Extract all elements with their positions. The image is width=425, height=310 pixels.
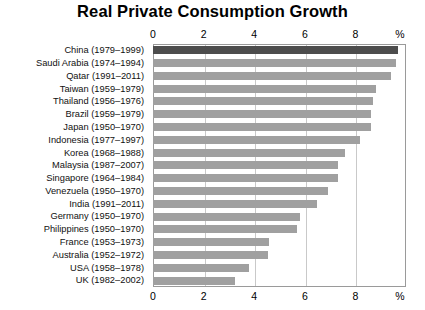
bar-row[interactable] [153, 159, 406, 172]
bar-row[interactable] [153, 44, 406, 57]
category-label: Australia (1952–1972) [0, 250, 144, 260]
category-label: Qatar (1991–2011) [0, 71, 144, 81]
bar[interactable] [153, 97, 373, 105]
bar-row[interactable] [153, 261, 406, 274]
category-label: Saudi Arabia (1974–1994) [0, 58, 144, 68]
bar-row[interactable] [153, 249, 406, 262]
bar[interactable] [153, 72, 391, 80]
bar-row[interactable] [153, 210, 406, 223]
category-label: Singapore (1964–1984) [0, 173, 144, 183]
bar[interactable] [153, 251, 268, 259]
category-label: Brazil (1959–1979) [0, 109, 144, 119]
bar[interactable] [153, 277, 235, 285]
category-label: UK (1982–2002) [0, 275, 144, 285]
bar-row[interactable] [153, 121, 406, 134]
x-tick-label-bottom-8: 8 [345, 290, 365, 302]
bar[interactable] [153, 110, 371, 118]
bar[interactable] [153, 213, 300, 221]
bar[interactable] [153, 200, 317, 208]
bar-chart: Real Private Consumption Growth China (1… [0, 0, 425, 310]
category-label: Japan (1950–1970) [0, 122, 144, 132]
category-label: Philippines (1950–1970) [0, 224, 144, 234]
x-axis-unit-label-bottom: % [390, 290, 410, 302]
bar[interactable] [153, 123, 371, 131]
bar[interactable] [153, 149, 345, 157]
bar[interactable] [153, 59, 396, 67]
category-label: USA (1958–1978) [0, 263, 144, 273]
bar-row[interactable] [153, 197, 406, 210]
category-label: China (1979–1999) [0, 45, 144, 55]
bar[interactable] [153, 225, 297, 233]
bar-row[interactable] [153, 95, 406, 108]
bar-row[interactable] [153, 57, 406, 70]
bar-row[interactable] [153, 70, 406, 83]
x-axis-unit-label-top: % [390, 28, 410, 40]
bar[interactable] [153, 136, 360, 144]
bar[interactable] [153, 264, 249, 272]
category-label: Indonesia (1977–1997) [0, 135, 144, 145]
category-label: Malaysia (1987–2007) [0, 160, 144, 170]
bar[interactable] [153, 46, 398, 54]
x-tick-label-top-0: 0 [143, 28, 163, 40]
bar[interactable] [153, 238, 269, 246]
bar-row[interactable] [153, 223, 406, 236]
x-tick-label-bottom-4: 4 [244, 290, 264, 302]
category-label: Thailand (1956–1976) [0, 96, 144, 106]
bar-row[interactable] [153, 236, 406, 249]
x-tick-label-top-2: 2 [194, 28, 214, 40]
category-label: India (1991–2011) [0, 199, 144, 209]
bar-row[interactable] [153, 82, 406, 95]
bar[interactable] [153, 161, 338, 169]
bar-row[interactable] [153, 172, 406, 185]
category-label: Korea (1968–1988) [0, 148, 144, 158]
category-label: Taiwan (1959–1979) [0, 84, 144, 94]
bar[interactable] [153, 174, 338, 182]
bar[interactable] [153, 85, 376, 93]
x-tick-label-top-4: 4 [244, 28, 264, 40]
bar-row[interactable] [153, 274, 406, 287]
x-tick-label-top-8: 8 [345, 28, 365, 40]
bar-row[interactable] [153, 185, 406, 198]
bar-row[interactable] [153, 134, 406, 147]
bar-row[interactable] [153, 108, 406, 121]
category-axis-labels: China (1979–1999)Saudi Arabia (1974–1994… [0, 44, 149, 287]
x-tick-label-bottom-0: 0 [143, 290, 163, 302]
x-tick-label-bottom-6: 6 [295, 290, 315, 302]
category-label: Germany (1950–1970) [0, 211, 144, 221]
category-label: France (1953–1973) [0, 237, 144, 247]
bar-row[interactable] [153, 146, 406, 159]
bars-layer [153, 44, 406, 287]
bar[interactable] [153, 187, 328, 195]
category-label: Venezuela (1950–1970) [0, 186, 144, 196]
chart-title: Real Private Consumption Growth [0, 2, 425, 21]
x-tick-label-bottom-2: 2 [194, 290, 214, 302]
x-tick-label-top-6: 6 [295, 28, 315, 40]
